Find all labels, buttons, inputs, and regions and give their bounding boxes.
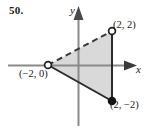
y-axis-arrowhead — [74, 6, 84, 20]
point-label-2-neg2: (2, −2) — [110, 99, 139, 110]
figure-container: 50. (2, 2) (2, −2) (−2, 0) y x — [0, 0, 159, 135]
x-axis-label: x — [136, 63, 141, 75]
y-axis-label: y — [70, 4, 75, 16]
point-label-neg2-0: (−2, 0) — [19, 68, 48, 79]
point-label-2-2: (2, 2) — [113, 19, 136, 30]
